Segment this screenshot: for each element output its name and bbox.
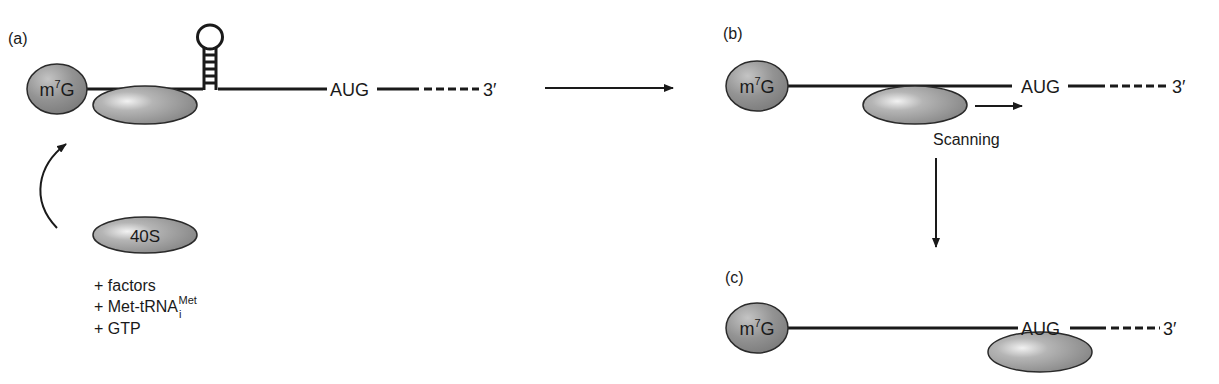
three-prime-label: 3′ [1163,319,1177,339]
addition-gtp: + GTP [94,320,141,337]
m7g-cap: m7G [726,61,788,111]
panel-b-label: (b) [723,25,743,42]
panel-c: (c) m7G AUG 3′ [725,269,1177,372]
addition-met-trna: + Met-tRNAiMet [94,294,197,320]
ribosome-40s-icon [93,86,197,124]
addition-factors: + factors [94,277,156,294]
three-prime-label: 3′ [1172,77,1186,97]
start-codon-label: AUG [330,80,369,100]
m7g-cap: m7G [27,64,87,114]
panel-a: (a) m7G AUG 3′ 40S [8,25,497,337]
scanning-label: Scanning [933,131,1000,148]
translation-initiation-diagram: (a) m7G AUG 3′ 40S [0,0,1219,384]
m7g-cap: m7G [726,303,788,353]
start-codon-label: AUG [1021,319,1060,339]
ribosome-40s-icon [863,86,967,124]
stem-loop-hairpin [198,25,223,90]
panel-a-label: (a) [8,30,28,47]
three-prime-label: 3′ [483,80,497,100]
curved-arrow-icon [40,144,66,228]
panel-c-label: (c) [725,269,744,286]
panel-b: (b) m7G AUG 3′ Scanning [723,25,1186,148]
free-40s-label: 40S [130,227,160,246]
start-codon-label: AUG [1021,77,1060,97]
